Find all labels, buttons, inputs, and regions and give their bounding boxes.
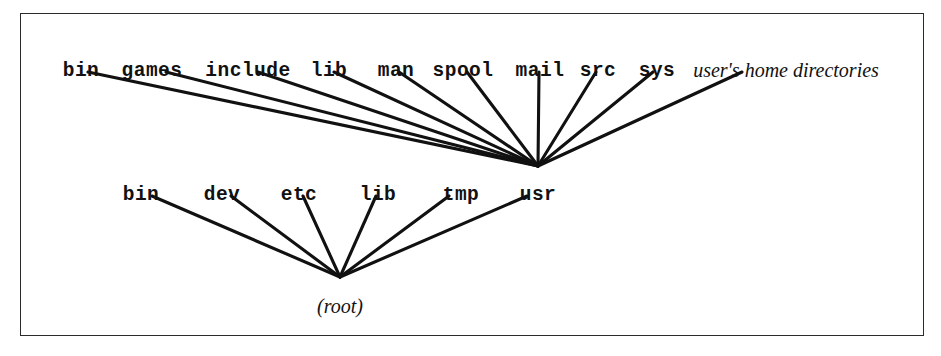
node-label-dev: dev	[204, 186, 241, 206]
node-label-usr-spool: spool	[432, 62, 493, 82]
node-label-lib: lib	[360, 186, 397, 206]
node-label-root: (root)	[317, 296, 363, 316]
annotation-usr-home: user's home directories	[693, 60, 879, 80]
edge-usr-games-to-usr	[166, 72, 538, 166]
node-label-usr-man: man	[378, 62, 415, 82]
figure-page: (root)bindevetclibtmpusrbingamesincludel…	[0, 0, 941, 356]
node-label-usr-sys: sys	[639, 62, 676, 82]
node-label-usr-lib: lib	[311, 62, 348, 82]
node-label-bin: bin	[123, 186, 160, 206]
node-label-tmp: tmp	[443, 186, 480, 206]
node-label-usr-bin: bin	[63, 62, 100, 82]
node-label-usr: usr	[520, 186, 557, 206]
node-label-etc: etc	[281, 186, 318, 206]
node-label-usr-mail: mail	[516, 62, 565, 82]
directory-tree-edges	[0, 0, 941, 356]
edge-usr-mail-to-usr	[538, 72, 539, 166]
edge-usr-sys-to-usr	[538, 72, 653, 166]
node-label-usr-include: include	[205, 62, 290, 82]
node-label-usr-games: games	[121, 62, 182, 82]
edge-usr-include-to-usr	[258, 72, 538, 166]
node-label-usr-src: src	[580, 62, 617, 82]
edge-usr-lib-to-usr	[334, 72, 538, 166]
